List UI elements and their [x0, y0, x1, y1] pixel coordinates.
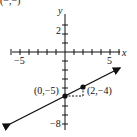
y-tick-label-neg8: −8 — [50, 118, 61, 129]
point-label-p2: (2,−4) — [87, 85, 112, 97]
y-axis-label: y — [57, 5, 63, 16]
point-label-p1: (0,−5) — [34, 85, 59, 97]
x-tick-label-5: 5 — [107, 55, 112, 66]
x-axis-label: x — [121, 47, 127, 58]
point-2-neg4 — [80, 84, 85, 89]
coordinate-plane: (−,−) −5 5 x 2 −8 y (0 — [0, 0, 137, 137]
x-tick-label-neg5: −5 — [14, 55, 25, 66]
y-tick-label-2: 2 — [56, 25, 61, 36]
top-fragment: (−,−) — [0, 0, 20, 7]
point-0-neg5 — [62, 93, 67, 98]
